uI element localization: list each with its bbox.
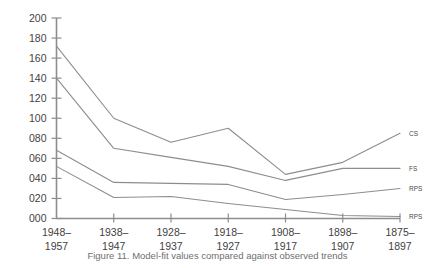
y-tick-label: 100 [29,112,47,124]
y-tick-label: 180 [29,32,47,44]
series-lines [57,46,401,216]
x-tick-label-start-year: 1918– [214,226,243,238]
x-tick-label-start-year: 1908– [271,226,300,238]
y-tick-label: 060 [29,152,47,164]
y-tick-label: 140 [29,72,47,84]
series-line-2 [57,150,401,199]
x-tick-label-start-year: 1898– [328,226,357,238]
y-tick-label: 040 [29,172,47,184]
line-chart: 000020040060080100120140160180200 1948–1… [0,0,435,268]
x-tick-label-start-year: 1938– [99,226,128,238]
y-tick-label: 020 [29,192,47,204]
x-tick-label-start-year: 1928– [156,226,185,238]
series-label-0: CS [409,130,419,137]
figure-caption: Figure 11. Model-fit values compared aga… [0,250,435,261]
series-line-0 [57,46,401,174]
y-tick-label: 160 [29,52,47,64]
y-axis-labels: 000020040060080100120140160180200 [29,12,47,225]
y-tick-label: 080 [29,132,47,144]
series-labels: CSFSRPSRPS [409,130,423,220]
series-line-1 [57,78,401,180]
x-tick-label-start-year: 1875– [385,226,414,238]
x-tick-label-start-year: 1948– [42,226,71,238]
series-label-1: FS [409,165,418,172]
series-line-3 [57,166,401,216]
series-label-2: RPS [409,185,423,192]
y-tick-label: 200 [29,12,47,24]
series-label-3: RPS [409,213,423,220]
x-axis-labels: 1948–19571938–19471928–19371918–19271908… [42,226,415,252]
y-tick-label: 000 [29,212,47,224]
y-tick-label: 120 [29,92,47,104]
chart-canvas: 000020040060080100120140160180200 1948–1… [0,0,435,268]
